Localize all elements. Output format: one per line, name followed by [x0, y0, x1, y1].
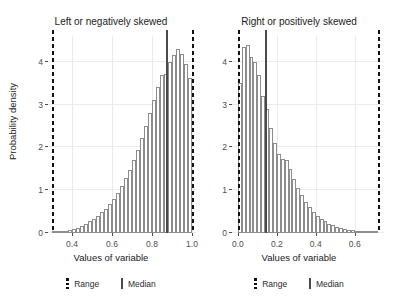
y-axis-tick-mark — [229, 146, 232, 147]
y-axis-tick-label: 2 — [38, 142, 48, 152]
x-axis-tick-mark — [277, 233, 278, 236]
median-line — [265, 30, 267, 233]
y-axis-tick-mark — [229, 104, 232, 105]
range-key-icon — [66, 278, 69, 289]
panel-left-skewed: Left or negatively skewed 012340.40.60.8… — [18, 0, 204, 305]
legend-label: Median — [128, 279, 156, 289]
y-axis-tick-mark — [45, 146, 48, 147]
plot-area: 012340.00.20.40.6 — [232, 36, 384, 233]
legend-label: Range — [262, 279, 287, 289]
legend-label: Range — [74, 279, 99, 289]
x-axis-tick-mark — [355, 233, 356, 236]
y-axis-tick-label: 2 — [222, 142, 232, 152]
y-axis-tick-label: 4 — [38, 57, 48, 67]
y-axis-tick-label: 1 — [222, 185, 232, 195]
median-key-icon — [121, 278, 123, 289]
range-max-line — [378, 30, 380, 233]
legend: RangeMedian — [18, 278, 204, 289]
panel-title: Right or positively skewed — [204, 16, 394, 27]
panel-title: Left or negatively skewed — [18, 16, 204, 27]
x-axis-tick-mark — [152, 233, 153, 236]
x-axis-tick-mark — [238, 233, 239, 236]
x-axis-tick-mark — [316, 233, 317, 236]
skewness-figure: Probability density Left or negatively s… — [0, 0, 401, 305]
range-min-line — [52, 30, 54, 233]
y-axis-tick-label: 4 — [222, 57, 232, 67]
x-axis-label: Values of variable — [204, 252, 394, 263]
legend-item: Median — [121, 278, 155, 289]
legend-label: Median — [316, 279, 344, 289]
y-axis-tick-label: 3 — [38, 100, 48, 110]
legend-item: Median — [309, 278, 343, 289]
x-axis-tick-mark — [112, 233, 113, 236]
y-axis-tick-mark — [45, 189, 48, 190]
y-axis-tick-mark — [45, 61, 48, 62]
range-key-icon — [254, 278, 257, 289]
y-axis-tick-mark — [229, 189, 232, 190]
range-min-line — [238, 30, 240, 233]
x-axis-label: Values of variable — [18, 252, 204, 263]
gridline-vertical — [316, 36, 317, 233]
legend: RangeMedian — [204, 278, 394, 289]
y-axis-tick-label: 0 — [222, 228, 232, 238]
y-axis-tick-mark — [229, 61, 232, 62]
gridline-vertical — [355, 36, 356, 233]
y-axis-tick-mark — [45, 104, 48, 105]
legend-item: Range — [254, 278, 287, 289]
y-axis-tick-label: 0 — [38, 228, 48, 238]
median-line — [166, 30, 168, 233]
y-axis-tick-label: 3 — [222, 100, 232, 110]
gridline-vertical — [72, 36, 73, 233]
y-axis-tick-mark — [45, 232, 48, 233]
panel-right-skewed: Right or positively skewed 012340.00.20.… — [204, 0, 394, 305]
x-axis-tick-mark — [72, 233, 73, 236]
range-max-line — [192, 30, 194, 233]
y-axis-tick-label: 1 — [38, 185, 48, 195]
legend-item: Range — [66, 278, 99, 289]
median-key-icon — [309, 278, 311, 289]
x-axis-tick-mark — [192, 233, 193, 236]
plot-area: 012340.40.60.81.0 — [48, 36, 196, 233]
